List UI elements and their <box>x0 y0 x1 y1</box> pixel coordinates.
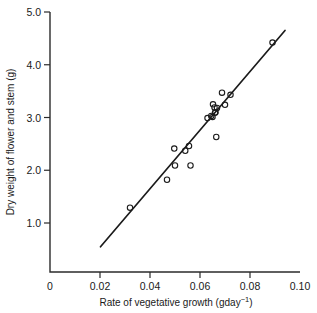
data-point <box>172 163 177 168</box>
data-point <box>214 134 219 139</box>
x-tick-label-002: 0.02 <box>90 280 111 292</box>
x-tick-marks <box>100 272 250 278</box>
fit-line <box>101 30 286 246</box>
x-axis-title: Rate of vegetative growth (gday−1) <box>99 295 252 308</box>
x-axis-title-tail: ) <box>249 297 252 308</box>
x-tick-label-004: 0.04 <box>140 280 161 292</box>
scatter-plot: 5.0 4.0 3.0 2.0 1.0 0 0.02 0.04 0.06 0.0… <box>0 0 317 313</box>
x-axis-title-base: Rate of vegetative growth (gday <box>99 297 240 308</box>
y-tick-label-3: 3.0 <box>26 112 41 124</box>
data-points <box>127 40 275 211</box>
y-tick-label-4: 4.0 <box>26 59 41 71</box>
x-tick-label-0: 0 <box>47 280 53 292</box>
x-tick-label-010: 0.10 <box>290 280 311 292</box>
data-point <box>219 90 224 95</box>
y-tick-label-5: 5.0 <box>26 6 41 18</box>
x-axis-title-exponent: −1 <box>241 295 250 304</box>
y-tick-label-2: 2.0 <box>26 164 41 176</box>
data-point <box>164 177 169 182</box>
y-axis-title: Dry weight of flower and stem (g) <box>5 69 16 216</box>
x-tick-label-008: 0.08 <box>240 280 261 292</box>
axes <box>50 12 300 272</box>
data-point <box>127 205 132 210</box>
y-tick-label-1: 1.0 <box>26 217 41 229</box>
x-tick-label-006: 0.06 <box>190 280 211 292</box>
data-point <box>172 146 177 151</box>
data-point <box>188 163 193 168</box>
data-point <box>222 102 227 107</box>
y-tick-marks <box>44 12 50 223</box>
chart-figure: 5.0 4.0 3.0 2.0 1.0 0 0.02 0.04 0.06 0.0… <box>0 0 317 313</box>
